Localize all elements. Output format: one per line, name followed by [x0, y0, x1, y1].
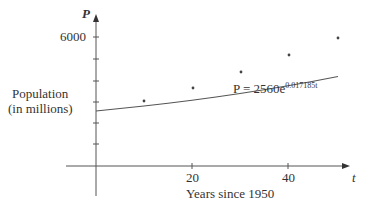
- formula-base: P = 2560e: [233, 81, 285, 96]
- y-axis-arrow-icon: [93, 14, 99, 22]
- x-axis-arrow-icon: [342, 163, 350, 169]
- x-axis-symbol: t: [352, 170, 356, 186]
- y-axis-symbol: P: [82, 6, 90, 22]
- y-axis-label-line2: (in millions): [8, 101, 73, 117]
- y-tick-label-6000: 6000: [60, 29, 86, 45]
- formula-annotation: P = 2560e0.017185t: [233, 81, 318, 97]
- formula-exponent: 0.017185t: [285, 81, 317, 90]
- x-tick-label-20: 20: [186, 170, 199, 186]
- x-axis-label: Years since 1950: [186, 186, 274, 202]
- x-tick-label-40: 40: [282, 170, 295, 186]
- y-axis-label-line1: Population: [12, 86, 68, 102]
